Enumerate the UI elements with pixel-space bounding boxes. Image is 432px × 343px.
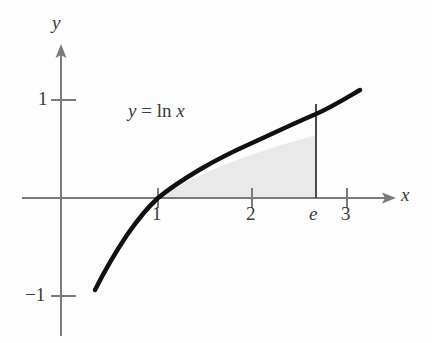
plot-canvas [0, 0, 432, 343]
x-tick-label-e: e [309, 203, 317, 225]
function-equals: = [136, 100, 156, 121]
y-tick-label-1: 1 [38, 88, 48, 110]
function-operator: ln [157, 100, 177, 121]
x-tick-label-2: 2 [246, 203, 256, 225]
x-tick-label-1: 1 [152, 203, 162, 225]
y-axis-label: y [52, 12, 60, 34]
x-axis-label: x [401, 184, 409, 206]
x-tick-label-3: 3 [341, 203, 351, 225]
figure-container: y x 1 −1 1 2 e 3 y = ln x [0, 0, 432, 343]
function-annotation: y = ln x [128, 100, 185, 122]
function-argument: x [176, 100, 184, 121]
shaded-area-region [158, 135, 316, 198]
y-tick-label-negative-1: −1 [25, 284, 45, 306]
